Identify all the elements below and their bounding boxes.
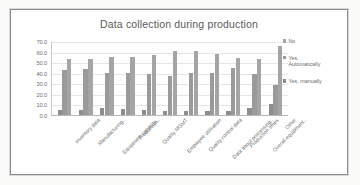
- bar[interactable]: [83, 69, 87, 116]
- legend-item-label: No: [288, 38, 295, 45]
- bar-group: [96, 42, 117, 115]
- bar[interactable]: [205, 111, 209, 115]
- bar[interactable]: [247, 108, 251, 115]
- bar[interactable]: [121, 109, 125, 115]
- bar[interactable]: [210, 73, 214, 115]
- bar[interactable]: [236, 58, 240, 115]
- bar[interactable]: [215, 54, 219, 115]
- x-axis-tick-label: Employee utilisation: [186, 117, 223, 154]
- bar-group: [223, 42, 244, 115]
- bar[interactable]: [126, 73, 130, 115]
- bar-group: [202, 42, 223, 115]
- bar[interactable]: [163, 111, 167, 115]
- bar[interactable]: [105, 73, 109, 115]
- bar[interactable]: [152, 55, 156, 115]
- bar[interactable]: [184, 111, 188, 115]
- bar-group: [181, 42, 202, 115]
- bar[interactable]: [88, 59, 92, 115]
- bar[interactable]: [130, 57, 134, 115]
- bar-group: [75, 42, 96, 115]
- legend-item[interactable]: Yes, Automatically: [283, 55, 345, 68]
- y-axis-tick-label: 10.0: [37, 102, 48, 108]
- y-axis-tick-label: 20.0: [37, 92, 48, 98]
- legend-swatch-icon: [283, 39, 286, 42]
- y-axis-tick-label: 60.0: [37, 50, 48, 56]
- bar[interactable]: [109, 57, 113, 115]
- bar[interactable]: [252, 74, 256, 115]
- bar-group: [244, 42, 265, 115]
- legend-item[interactable]: No: [283, 38, 345, 45]
- bar[interactable]: [168, 76, 172, 115]
- y-axis: 70.060.050.040.030.020.010.00.0: [23, 42, 49, 116]
- bar[interactable]: [269, 104, 273, 115]
- bar[interactable]: [100, 108, 104, 115]
- bar[interactable]: [273, 85, 277, 115]
- legend-item-label: Yes, manually: [288, 78, 321, 85]
- plot-area: [51, 42, 288, 116]
- bar-group: [138, 42, 159, 115]
- bar-group: [54, 42, 75, 115]
- bar[interactable]: [62, 70, 66, 115]
- bar[interactable]: [142, 110, 146, 115]
- bar[interactable]: [58, 110, 62, 115]
- legend-item-label: Yes, Automatically: [288, 55, 320, 68]
- legend-swatch-icon: [283, 79, 286, 82]
- x-axis-tick-label: Production..: [137, 117, 161, 141]
- x-axis-tick-label: Quality MGMT: [160, 117, 188, 145]
- y-axis-tick-label: 70.0: [37, 39, 48, 45]
- bar-group: [159, 42, 180, 115]
- chart-legend[interactable]: NoYes, AutomaticallyYes, manually: [283, 38, 345, 94]
- bar[interactable]: [173, 51, 177, 115]
- screenshot-root: Data collection during production 70.060…: [0, 0, 360, 185]
- bar[interactable]: [67, 59, 71, 115]
- y-axis-tick-label: 0.0: [40, 113, 47, 119]
- bar[interactable]: [231, 68, 235, 115]
- chart-container[interactable]: Data collection during production 70.060…: [10, 9, 348, 175]
- bar-group: [117, 42, 138, 115]
- bar[interactable]: [79, 110, 83, 115]
- bar[interactable]: [147, 74, 151, 115]
- y-axis-tick-label: 50.0: [37, 60, 48, 66]
- x-axis-category-labels: Inventory dataManufacturing..Equipment c…: [51, 117, 288, 167]
- legend-swatch-icon: [283, 56, 286, 59]
- bar[interactable]: [278, 46, 282, 115]
- bar[interactable]: [226, 111, 230, 115]
- bar-series-group: [52, 42, 288, 115]
- y-axis-tick-label: 40.0: [37, 71, 48, 77]
- chart-title: Data collection during production: [11, 18, 347, 30]
- legend-item[interactable]: Yes, manually: [283, 78, 345, 85]
- bar[interactable]: [194, 51, 198, 115]
- y-axis-tick-label: 30.0: [37, 81, 48, 87]
- bar[interactable]: [189, 73, 193, 115]
- bar[interactable]: [257, 59, 261, 115]
